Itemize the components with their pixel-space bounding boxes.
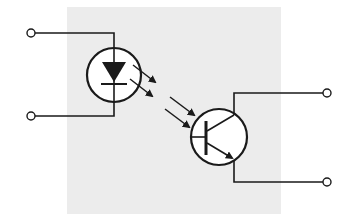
optocoupler-diagram xyxy=(0,0,359,218)
phototransistor-icon xyxy=(191,109,247,165)
input-terminal-top[interactable] xyxy=(27,29,35,37)
led-icon xyxy=(87,48,141,102)
output-terminal-emitter[interactable] xyxy=(323,178,331,186)
received-light-arrows-icon xyxy=(165,97,194,127)
input-terminal-bottom[interactable] xyxy=(27,112,35,120)
output-terminal-collector[interactable] xyxy=(323,89,331,97)
